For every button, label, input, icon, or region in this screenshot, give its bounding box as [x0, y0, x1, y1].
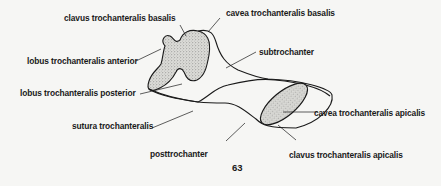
label-clavus-apicalis: clavus trochanteralis apicalis — [289, 150, 403, 160]
apical-stippled-region — [254, 76, 314, 132]
label-posttrochanter: posttrochanter — [150, 149, 208, 159]
label-lobus-anterior: lobus trochanteralis anterior — [27, 56, 138, 66]
basal-stippled-region — [148, 30, 210, 90]
label-cavea-apicalis: cavea trochanteralis apicalis — [314, 108, 425, 118]
label-clavus-basalis: clavus trochanteralis basalis — [64, 13, 176, 23]
label-sutura: sutura trochanteralis — [72, 121, 153, 131]
diagram-canvas: clavus trochanteralis basalis cavea troc… — [0, 0, 441, 186]
label-cavea-basalis: cavea trochanteralis basalis — [226, 8, 335, 18]
label-subtrochanter: subtrochanter — [259, 47, 314, 57]
page-number: 63 — [232, 162, 243, 173]
label-lobus-posterior: lobus trochanteralis posterior — [20, 88, 136, 98]
